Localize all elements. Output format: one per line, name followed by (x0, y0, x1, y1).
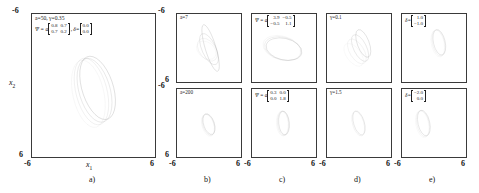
ellipse-canvas-b-top (177, 14, 241, 82)
ellipse-contour (348, 32, 372, 64)
tick-b-ymid-top: -6 (158, 81, 165, 90)
tick-d-xright: 6 (386, 159, 390, 168)
ellipse-contour (264, 35, 304, 64)
panel-letter-d: d) (354, 175, 361, 184)
panel-letter-c: c) (279, 175, 285, 184)
ellipse-contour (196, 31, 222, 68)
annotation-a-line1: a=50, γ=0.35 (35, 15, 92, 21)
ellipse-contour (70, 53, 119, 128)
ellipse-contour (415, 109, 432, 137)
plot-area-c-bottom: Ψ = a 0.3 0.0 0.0 1.8 (251, 88, 317, 158)
plot-area-b-bottom: a=200 (176, 88, 242, 158)
psi-matrix-c-top: 3.9 −0.5 −0.5 1.1 (267, 15, 294, 27)
ellipse-contour (349, 110, 367, 138)
psi-label-c-bottom: Ψ = a (255, 93, 267, 99)
tick-a-ytop: -6 (12, 6, 19, 15)
ellipse-contour (65, 56, 111, 132)
tick-c-xright: 6 (311, 159, 315, 168)
annotation-c-bottom: Ψ = a 0.3 0.0 0.0 1.8 (255, 90, 289, 102)
psi-a-10: 0.7 (51, 29, 57, 35)
psi-matrix-c-bottom: 0.3 0.0 0.0 1.8 (267, 90, 289, 102)
ellipse-contour (344, 36, 370, 68)
ellipse-contour (68, 53, 116, 130)
panel-letter-a: a) (89, 175, 95, 184)
tick-b-xleft: -6 (169, 159, 176, 168)
tick-b-ybottom: 6 (165, 150, 169, 159)
axis-label-y-a: x2 (9, 78, 15, 89)
ellipse-contour (278, 111, 291, 136)
ellipse-contour (73, 50, 123, 125)
annotation-d-bottom: γ=1.5 (330, 90, 342, 96)
annotation-b-bottom: a=200 (180, 90, 193, 96)
ellipse-contour (431, 28, 448, 56)
annotation-e-bottom: δ= −2.0 0.0 (405, 90, 426, 102)
tick-b-ymid-bottom: 6 (165, 75, 169, 84)
annotation-c-top: Ψ = a 3.9 −0.5 −0.5 1.1 (255, 15, 295, 27)
plot-area-b-top: a=7 (176, 13, 242, 83)
ellipse-contour (193, 37, 219, 63)
delta-a-1: 0.0 (83, 29, 89, 35)
tick-b-ytop: -6 (158, 6, 165, 15)
annotation-d-top: γ=0.1 (330, 15, 342, 21)
psi-label-a: Ψ = a (35, 26, 48, 32)
ellipse-contour (353, 27, 374, 59)
plot-area-c-top: Ψ = a 3.9 −0.5 −0.5 1.1 (251, 13, 317, 83)
plot-area-d-bottom: γ=1.5 (326, 88, 392, 158)
tick-a-ybottom: 6 (19, 150, 23, 159)
ellipse-contour (262, 33, 303, 64)
tick-e-xleft: -6 (394, 159, 401, 168)
plot-area-e-bottom: δ= −2.0 0.0 (401, 88, 467, 158)
tick-a-xleft: -6 (24, 159, 31, 168)
ellipse-contour (429, 29, 447, 58)
annotation-b-top: a=7 (180, 15, 188, 21)
ellipse-canvas-b-bottom (177, 89, 241, 157)
panel-letter-b: b) (204, 175, 211, 184)
ellipse-contour (198, 23, 222, 73)
delta-vector-a: 0.0 0.0 (80, 23, 92, 35)
ellipse-contour (200, 112, 217, 137)
axis-label-x-a: x1 (86, 160, 92, 171)
plot-area-a: a=50, γ=0.35 Ψ = a 0.8 0.7 0.7 0.2 , (31, 13, 156, 158)
ellipse-contour (414, 109, 432, 138)
ellipse-contour (413, 109, 431, 138)
delta-vector-e-top: 1.0 −1.0 (411, 15, 426, 27)
tick-b-xright: 6 (236, 159, 240, 168)
ellipse-contour (350, 109, 367, 136)
ellipse-contour (193, 34, 221, 65)
ellipse-canvas-d-top (327, 14, 391, 82)
psi-c-bottom-10: 0.0 (270, 96, 276, 102)
delta-e-bottom-1: 0.0 (414, 96, 423, 102)
tick-e-xright: 6 (461, 159, 465, 168)
psi-c-top-10: −0.5 (270, 21, 279, 27)
panel-letter-e: e) (429, 175, 435, 184)
psi-c-top-11: 1.1 (282, 21, 291, 27)
plot-area-e-top: δ= 1.0 −1.0 (401, 13, 467, 83)
delta-e-top-1: −1.0 (414, 21, 423, 27)
plot-area-d-top: γ=0.1 (326, 13, 392, 83)
ellipse-canvas-d-bottom (327, 89, 391, 157)
annotation-e-top: δ= 1.0 −1.0 (405, 15, 426, 27)
delta-vector-e-bottom: −2.0 0.0 (411, 90, 426, 102)
ellipse-contour (430, 28, 448, 57)
psi-a-11: 0.2 (61, 29, 67, 35)
psi-label-c-top: Ψ = a (255, 18, 267, 24)
annotation-a: a=50, γ=0.35 Ψ = a 0.8 0.7 0.7 0.2 , (35, 15, 92, 35)
ellipse-contour (261, 32, 304, 65)
psi-c-bottom-11: 1.8 (280, 96, 286, 102)
ellipse-canvas-a (32, 14, 155, 157)
tick-d-xleft: -6 (319, 159, 326, 168)
psi-matrix-a: 0.8 0.7 0.7 0.2 (48, 23, 70, 35)
ellipse-figure: a=50, γ=0.35 Ψ = a 0.8 0.7 0.7 0.2 , (0, 0, 479, 193)
tick-a-xright: 6 (150, 159, 154, 168)
tick-c-xleft: -6 (244, 159, 251, 168)
